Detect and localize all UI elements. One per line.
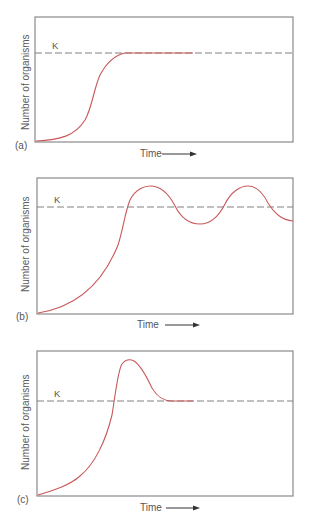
y-axis-label: Number of organisms [20,34,31,130]
panel-label: (a) [15,140,27,151]
population-curve [36,53,193,141]
plot-a [0,0,309,170]
k-label: K [54,388,60,399]
x-axis-label: Time [137,319,159,330]
population-curve [38,186,293,313]
plot-b [0,170,309,340]
k-label: K [52,40,58,51]
plot-c [0,340,309,526]
arrow-head-icon [190,152,197,157]
population-curve [38,360,193,495]
y-axis-label: Number of organisms [20,374,31,470]
y-axis-label: Number of organisms [20,196,31,292]
panel-label: (b) [16,311,28,322]
panel-b: Number of organisms K (b) Time [0,170,309,340]
plot-frame [37,351,293,496]
plot-frame [37,178,293,314]
x-axis-label: Time [140,502,162,513]
panel-a: Number of organisms K (a) Time [0,0,309,170]
plot-frame [35,17,293,142]
arrow-head-icon [193,323,200,328]
panel-c: Number of organisms K (c) Time [0,340,309,526]
panel-label: (c) [17,494,29,505]
x-axis-label: Time [140,148,162,159]
arrow-head-icon [193,506,200,511]
k-label: K [54,194,60,205]
